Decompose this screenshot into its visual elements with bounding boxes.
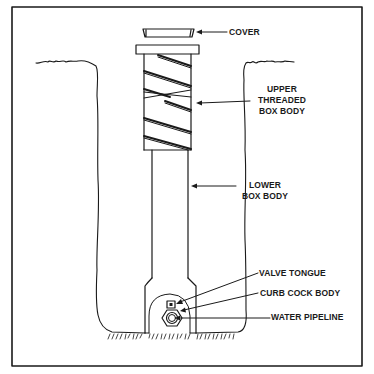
diagram: COVER UPPER THREADED BOX BODY LOWER BOX … xyxy=(0,0,374,374)
lower-body-leader xyxy=(191,184,236,189)
label-valve-tongue: VALVE TONGUE xyxy=(259,268,326,279)
water-pipeline-leader xyxy=(175,316,270,321)
upper-body-leader xyxy=(196,101,250,106)
ground-hatching xyxy=(108,334,234,339)
cover-leader xyxy=(196,30,227,35)
lower-box-body xyxy=(152,150,188,278)
label-line: BOX BODY xyxy=(236,191,294,202)
label-water-pipeline: WATER PIPELINE xyxy=(271,312,344,323)
label-upper-threaded-box-body: UPPER THREADED BOX BODY xyxy=(248,84,316,117)
label-line: BOX BODY xyxy=(248,106,316,117)
label-cover: COVER xyxy=(229,27,260,38)
upper-box-flange xyxy=(136,45,199,54)
upper-threaded-box-body xyxy=(144,54,191,150)
cover xyxy=(143,29,194,37)
label-line: THREADED xyxy=(248,95,316,106)
label-lower-box-body: LOWER BOX BODY xyxy=(236,180,294,202)
label-line: UPPER xyxy=(248,84,316,95)
label-line: LOWER xyxy=(236,180,294,191)
label-curb-cock-body: CURB COCK BODY xyxy=(260,288,340,299)
valve-tongue xyxy=(167,301,175,308)
thread-lines xyxy=(144,55,191,150)
